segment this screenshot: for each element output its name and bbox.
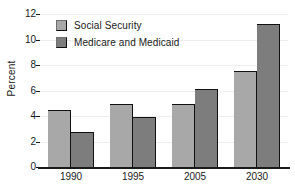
bar — [48, 110, 71, 167]
y-axis-tick-labels: 024681012 — [12, 14, 36, 167]
bar — [172, 104, 195, 167]
legend-label: Social Security — [74, 20, 142, 31]
x-tick-label: 2005 — [164, 171, 226, 183]
gridline — [40, 65, 288, 66]
y-tick-label: 12 — [14, 9, 36, 19]
y-tick-label: 8 — [14, 60, 36, 70]
bar — [71, 132, 94, 167]
gridline — [40, 14, 288, 15]
bar — [110, 104, 133, 167]
y-tick-label: 6 — [14, 86, 36, 96]
x-axis-line — [38, 167, 290, 169]
bar — [257, 24, 280, 167]
y-tick-mark — [36, 65, 40, 66]
y-tick-mark — [36, 116, 40, 117]
chart-legend: Social SecurityMedicare and Medicaid — [56, 18, 180, 52]
y-tick-mark — [36, 142, 40, 143]
y-tick-label: 0 — [14, 162, 36, 172]
y-tick-label: 2 — [14, 137, 36, 147]
y-tick-label: 4 — [14, 111, 36, 121]
bar — [195, 89, 218, 167]
legend-label: Medicare and Medicaid — [74, 37, 180, 48]
y-tick-mark — [36, 167, 40, 168]
y-tick-mark — [36, 40, 40, 41]
x-tick-label: 1990 — [40, 171, 102, 183]
bar-chart: Percent 024681012 1990199520052030 Socia… — [0, 0, 295, 193]
legend-item: Medicare and Medicaid — [56, 35, 180, 50]
y-tick-label: 10 — [14, 35, 36, 45]
y-tick-mark — [36, 14, 40, 15]
legend-item: Social Security — [56, 18, 180, 33]
bar — [133, 117, 156, 167]
x-tick-label: 2030 — [226, 171, 288, 183]
x-axis-tick-labels: 1990199520052030 — [40, 171, 288, 187]
y-tick-mark — [36, 91, 40, 92]
legend-swatch-icon — [56, 37, 67, 48]
bar — [234, 71, 257, 167]
legend-swatch-icon — [56, 20, 67, 31]
x-tick-label: 1995 — [102, 171, 164, 183]
